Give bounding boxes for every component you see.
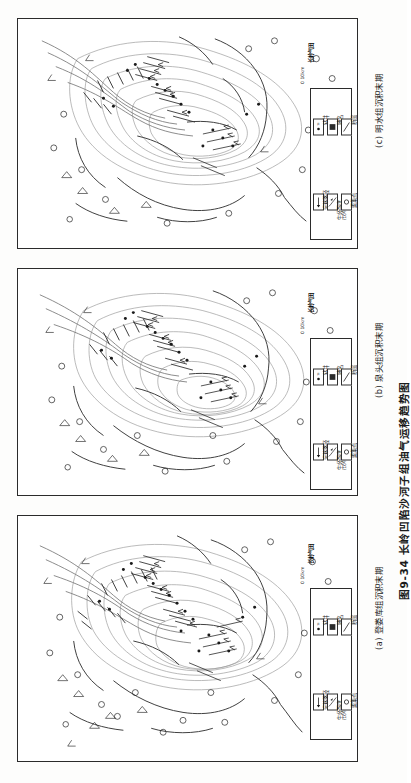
legend-column-2: 地名 生烃强度 (10⁸m³/km²) [325,339,339,489]
legend-column-1: 井 钻井 运移路径 [311,89,325,239]
well-symbol: 井 [313,368,324,385]
legend-item-accumulation: 聚集点 [339,164,353,239]
placename-symbol [327,118,338,135]
legend-item-well: 井 钻井 [311,589,325,664]
legend-column-1: 井 钻井 运移路径 [311,339,325,489]
legend-column-3: 断层 聚集点 [339,89,353,239]
panel-subcaption-c: (c) 明水组沉积末期 [372,74,384,148]
legend-item-migration: 运移路径 [311,164,325,239]
legend-label-fault: 断层 [352,115,357,125]
legend-item-intensity: 生烃强度 (10⁸m³/km²) [325,164,339,239]
panel-subcaption-b: (b) 泉头组沉积末期 [372,323,384,398]
legend-item-well: 井 钻井 [311,339,325,414]
svg-text:井: 井 [317,621,320,625]
svg-text:井: 井 [317,121,320,125]
field-label-c: 长岭气田 [307,43,315,63]
field-label-a: 长岭气田 [307,544,315,564]
legend-item-placename: 地名 [325,589,339,664]
map-panel-c: 长岭气田 [17,18,358,249]
legend-item-fault: 断层 [339,589,353,664]
legend-item-placename: 地名 [325,89,339,164]
legend-item-migration: 运移路径 [311,414,325,489]
accumulation-symbol [341,443,352,460]
figure-caption: 图9-34 长岭凹陷沙河子组油气运移趋势图 [396,381,411,600]
scale-note-b: 0 10km [300,317,305,334]
accumulation-symbol [341,693,352,710]
legend-item-migration: 运移路径 [311,664,325,739]
fault-symbol [341,618,352,635]
legend-column-1: 井 钻井 运移路径 [311,589,325,739]
fault-symbol [341,368,352,385]
legend-column-2: 地名 生烃强度 (10⁸m³/km²) [325,589,339,739]
accumulation-symbol [341,193,352,210]
panel-subcaption-a: (a) 登娄库组沉积末期 [372,567,384,650]
arrow-symbol [313,443,324,460]
legend-label-fault: 断层 [352,365,357,375]
legend-item-well: 井 钻井 [311,89,325,164]
legend-item-intensity: 生烃强度 (10⁸m³/km²) [325,414,339,489]
field-label-b: 长岭气田 [307,293,315,313]
legend-label-fault: 断层 [352,615,357,625]
arrow-symbol [313,693,324,710]
svg-text:井: 井 [317,371,320,375]
legend-box-b: 井 钻井 运移路径 地名 [310,338,352,490]
legend-label-accumulation: 聚集点 [352,693,357,708]
legend-column-3: 断层 聚集点 [339,589,353,739]
legend-item-intensity: 生烃强度 (10⁸m³/km²) [325,664,339,739]
map-panel-b: 长岭气田 [17,268,358,496]
contour-symbol [327,193,338,210]
legend-item-placename: 地名 [325,339,339,414]
legend-item-fault: 断层 [339,339,353,414]
legend-box-a: 井 钻井 运移路径 地名 [310,588,352,740]
fault-symbol [341,118,352,135]
legend-item-fault: 断层 [339,89,353,164]
placename-symbol [327,368,338,385]
map-panel-a: 长岭气田 [17,515,358,762]
contour-symbol [327,443,338,460]
well-symbol: 井 [313,618,324,635]
scale-note-a: 0 10km [300,567,305,584]
legend-label-accumulation: 聚集点 [352,193,357,208]
legend-item-accumulation: 聚集点 [339,664,353,739]
scale-note-c: 0 10km [300,67,305,84]
arrow-symbol [313,193,324,210]
legend-column-2: 地名 生烃强度 (10⁸m³/km²) [325,89,339,239]
legend-label-accumulation: 聚集点 [352,443,357,458]
contour-symbol [327,693,338,710]
legend-box-c: 井 钻井 运移路径 地名 [310,88,352,240]
legend-column-3: 断层 聚集点 [339,339,353,489]
placename-symbol [327,618,338,635]
legend-item-accumulation: 聚集点 [339,414,353,489]
well-symbol: 井 [313,118,324,135]
